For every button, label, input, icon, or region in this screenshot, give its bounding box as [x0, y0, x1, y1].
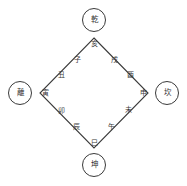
diamond-outline: [40, 38, 148, 148]
trigram-label-li: 離: [17, 89, 24, 97]
branch-label-zi: 子: [74, 57, 81, 64]
diagram-canvas: [0, 0, 187, 186]
branch-label-mao: 卯: [58, 108, 65, 115]
branch-label-yin: 寅: [42, 90, 49, 97]
bagua-branches-diagram: 乾 坎 坤 離 亥 戌 酉 申 未 午 巳 辰 卯 寅 丑 子: [0, 0, 187, 186]
branch-label-si: 巳: [91, 140, 98, 147]
branch-label-xu: 戌: [111, 57, 118, 64]
trigram-label-kun: 坤: [91, 161, 98, 169]
branch-label-chen: 辰: [73, 124, 80, 131]
branch-label-hai: 亥: [91, 41, 98, 48]
branch-label-wei: 未: [125, 107, 132, 114]
branch-label-chou: 丑: [58, 72, 65, 79]
branch-label-shen: 申: [140, 90, 147, 97]
trigram-label-qian: 乾: [91, 16, 98, 24]
branch-label-wu: 午: [108, 124, 115, 131]
branch-label-you: 酉: [127, 72, 134, 79]
trigram-label-kan: 坎: [164, 89, 171, 97]
